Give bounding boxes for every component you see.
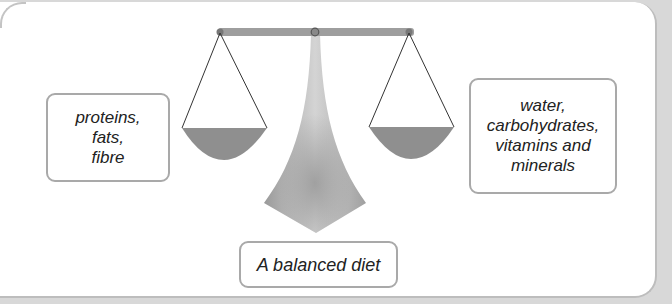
- caption-box: A balanced diet: [239, 241, 398, 288]
- caption-text: A balanced diet: [257, 255, 380, 275]
- scale-stand: [264, 34, 366, 233]
- right-pivot-icon: [406, 29, 413, 36]
- right-label-line: minerals: [511, 156, 575, 176]
- left-pan: [182, 33, 267, 160]
- left-pan-label: proteins, fats, fibre: [46, 93, 170, 182]
- center-pivot-icon: [311, 28, 319, 36]
- right-pan-label: water, carbohydrates, vitamins and miner…: [469, 78, 617, 194]
- left-pivot-icon: [217, 29, 224, 36]
- left-label-line: fibre: [91, 148, 124, 168]
- right-label-line: water,: [520, 96, 565, 116]
- right-pan: [369, 33, 454, 159]
- right-label-line: carbohydrates,: [487, 116, 599, 136]
- left-label-line: proteins,: [75, 108, 140, 128]
- left-label-line: fats,: [92, 128, 124, 148]
- right-label-line: vitamins and: [495, 136, 590, 156]
